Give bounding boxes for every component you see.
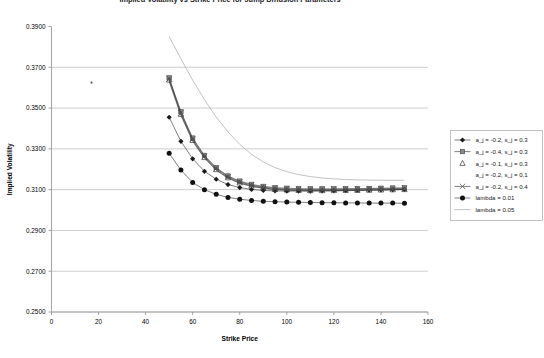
x-tick-label: 140 (376, 318, 387, 325)
data-point-circle (273, 199, 278, 204)
y-tick-label: 0.2900 (26, 227, 46, 234)
data-point-circle (296, 200, 301, 205)
y-tick-label: 0.3700 (26, 64, 46, 71)
x-tick-label: 0 (50, 318, 54, 325)
chart-title-clipped: Implied Volatility vs Strike Price for J… (119, 0, 340, 4)
data-point-circle (214, 192, 219, 197)
x-tick-label: 120 (329, 318, 340, 325)
implied-volatility-chart: 0.25000.27000.29000.31000.33000.35000.37… (0, 0, 544, 358)
series-3 (169, 82, 404, 191)
data-point-diamond (167, 115, 172, 120)
legend-label: a_j = -0.2, s_j = 0.3 (476, 136, 529, 143)
data-point-circle (331, 200, 336, 205)
legend-label: a_j = -0.4, s_j = 0.3 (476, 148, 529, 155)
stray-artifact-dot (91, 82, 93, 84)
y-tick-label: 0.3300 (26, 145, 46, 152)
axes (49, 27, 429, 316)
legend-item-3[interactable]: a_j = -0.2, s_j = 0.1 (476, 171, 529, 178)
series-line (169, 153, 404, 203)
legend-label: a_j = -0.1, s_j = 0.3 (476, 160, 529, 167)
data-point-circle (367, 201, 372, 206)
data-point-diamond (178, 139, 183, 144)
data-point-circle (249, 198, 254, 203)
data-point-circle (390, 201, 395, 206)
y-tick-label: 0.2500 (26, 308, 46, 315)
legend-label: a_j = -0.2, s_j = 0.1 (476, 171, 529, 178)
x-tick-label: 100 (281, 318, 292, 325)
data-point-circle (225, 195, 230, 200)
x-tick-label: 60 (189, 318, 197, 325)
data-point-circle (355, 200, 360, 205)
stray-dot (91, 82, 93, 84)
series-5 (167, 151, 407, 206)
y-tick-label: 0.3500 (26, 104, 46, 111)
y-tick-label: 0.2700 (26, 268, 46, 275)
chart-legend[interactable]: a_j = -0.2, s_j = 0.3a_j = -0.4, s_j = 0… (451, 131, 543, 221)
legend-label: a_j = -0.2, s_j = 0.4 (476, 183, 529, 190)
series-4 (166, 76, 407, 192)
data-point-square (460, 149, 464, 153)
series-line (169, 82, 404, 191)
data-point-diamond (214, 177, 219, 182)
data-point-diamond (225, 182, 230, 187)
data-point-circle (202, 187, 207, 192)
x-axis-title: Strike Price (222, 335, 259, 342)
series-2 (167, 77, 408, 193)
data-point-circle (378, 201, 383, 206)
series-1 (167, 76, 407, 191)
y-tick-label: 0.3900 (26, 23, 46, 30)
y-axis-title: Implied Volatility (6, 143, 14, 195)
x-tick-label: 80 (236, 318, 244, 325)
data-point-diamond (249, 187, 254, 192)
data-point-circle (237, 197, 242, 202)
data-point-circle (402, 201, 407, 206)
x-tick-label: 20 (95, 318, 103, 325)
chart-canvas: 0.25000.27000.29000.31000.33000.35000.37… (0, 0, 544, 358)
data-point-circle (343, 200, 348, 205)
chart-title-text: Implied Volatility vs Strike Price for J… (119, 0, 340, 4)
data-point-circle (460, 196, 465, 201)
legend-label: lambda = 0.05 (476, 206, 515, 213)
data-point-circle (261, 199, 266, 204)
legend-label: lambda = 0.01 (476, 194, 515, 201)
data-point-circle (308, 200, 313, 205)
data-point-circle (284, 200, 289, 205)
data-point-circle (320, 200, 325, 205)
x-tick-label: 40 (142, 318, 150, 325)
data-point-circle (167, 151, 172, 156)
data-point-circle (190, 180, 195, 185)
series-plot-area (166, 36, 407, 205)
y-tick-label: 0.3100 (26, 186, 46, 193)
x-tick-label: 160 (423, 318, 434, 325)
data-point-circle (178, 168, 183, 173)
